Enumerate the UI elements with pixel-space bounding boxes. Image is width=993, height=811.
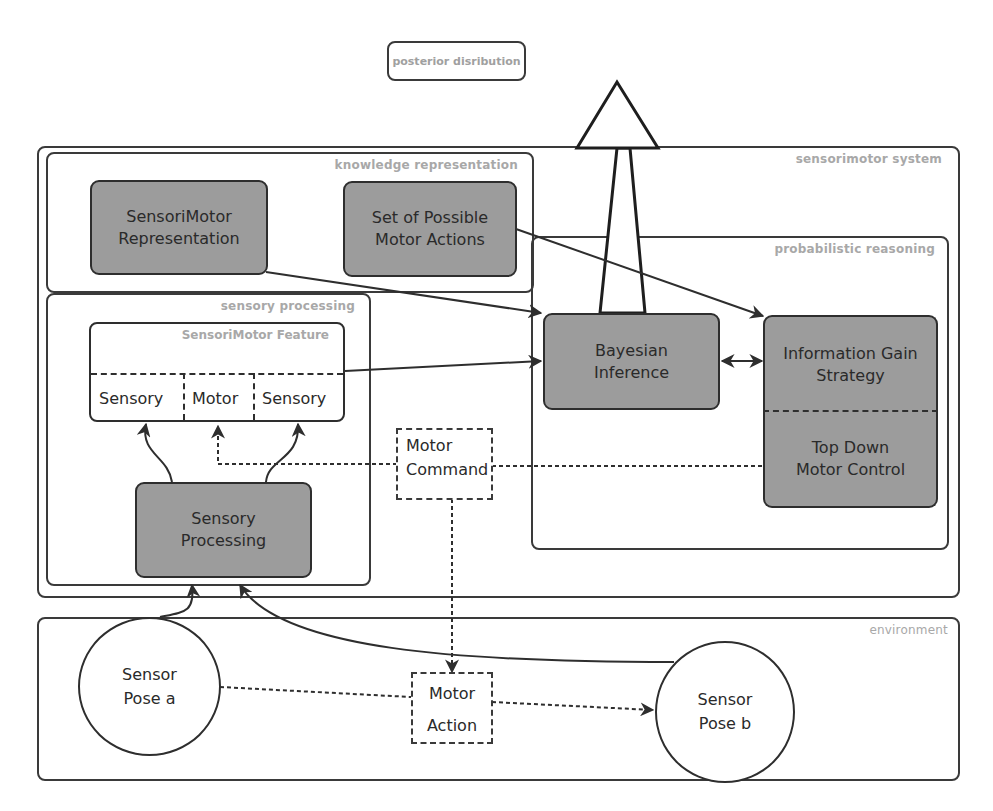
node-label-line1: Sensor xyxy=(698,688,753,712)
group-label-environment: environment xyxy=(869,623,948,637)
node-motor-action: Motor Action xyxy=(411,672,493,744)
node-label-line1: SensoriMotor xyxy=(118,206,240,228)
feature-cell-sensory-left: Sensory xyxy=(99,388,163,410)
node-label-line2: Action xyxy=(417,710,487,742)
node-label-line1: Sensor xyxy=(122,663,177,687)
node-information-gain-strategy: Information Gain Strategy xyxy=(763,315,938,412)
sensorimotor-feature: SensoriMotor Feature Sensory Motor Senso… xyxy=(89,322,345,422)
node-label-line2: Inference xyxy=(594,362,669,384)
feature-divider-dashed xyxy=(91,373,343,375)
posterior-distribution-text: posterior disribution xyxy=(392,55,520,68)
node-label-line2: Pose a xyxy=(124,687,176,711)
node-sensory-processing: Sensory Processing xyxy=(135,482,312,578)
node-sensor-pose-b: Sensor Pose b xyxy=(655,641,795,783)
node-motor-command: Motor Command xyxy=(396,428,493,500)
node-label-line2: Pose b xyxy=(699,712,751,736)
posterior-distribution-label: posterior disribution xyxy=(387,41,526,81)
node-possible-motor-actions: Set of Possible Motor Actions xyxy=(343,181,517,277)
node-label-line2: Motor Actions xyxy=(372,229,488,251)
node-label-line2: Processing xyxy=(181,530,266,552)
feature-title: SensoriMotor Feature xyxy=(182,328,329,342)
node-bayesian-inference: Bayesian Inference xyxy=(543,313,720,410)
feature-cell-motor: Motor xyxy=(192,388,238,410)
feature-cell-sensory-right: Sensory xyxy=(262,388,326,410)
group-label-sensory-processing: sensory processing xyxy=(221,299,355,313)
node-label-line1: Motor xyxy=(417,678,487,710)
node-label-line1: Sensory xyxy=(181,508,266,530)
group-label-knowledge-representation: knowledge representation xyxy=(335,158,518,172)
node-label-line1: Bayesian xyxy=(594,340,669,362)
node-label-line1: Set of Possible xyxy=(372,207,488,229)
feature-cell-divider-2 xyxy=(253,373,255,420)
node-label-line1: Motor xyxy=(406,434,483,458)
node-sensorimotor-representation: SensoriMotor Representation xyxy=(90,180,268,275)
node-top-down-motor-control: Top Down Motor Control xyxy=(763,412,938,508)
node-label-line2: Strategy xyxy=(783,365,918,387)
group-label-sensorimotor-system: sensorimotor system xyxy=(796,152,942,166)
node-label-line2: Command xyxy=(406,458,483,482)
node-label-line1: Top Down xyxy=(796,437,905,459)
node-label-line1: Information Gain xyxy=(783,343,918,365)
node-label-line2: Representation xyxy=(118,228,240,250)
node-label-line2: Motor Control xyxy=(796,459,905,481)
feature-cell-divider-1 xyxy=(183,373,185,420)
node-sensor-pose-a: Sensor Pose a xyxy=(78,617,221,756)
group-label-probabilistic-reasoning: probabilistic reasoning xyxy=(774,242,935,256)
